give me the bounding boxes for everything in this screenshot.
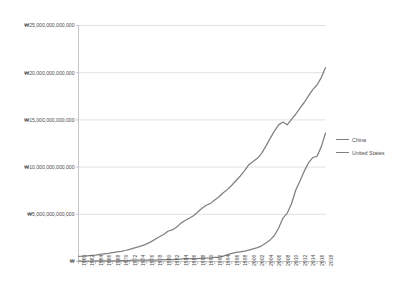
x-axis-tick-label: 1982 (174, 255, 180, 266)
legend-label-united-states: United States (352, 150, 384, 156)
x-axis-tick-label: 1978 (157, 255, 163, 266)
y-axis-tick-label: ₩ (70, 258, 75, 264)
legend-line-icon-united-states (336, 152, 349, 153)
x-axis-tick-label: 2006 (276, 255, 282, 266)
x-axis-tick-label: 1972 (132, 255, 138, 266)
x-axis-tick-label: 2004 (268, 255, 274, 266)
x-axis-tick-label: 1976 (149, 255, 155, 266)
y-axis-tick-label: ₩10,000,000,000,000 (24, 164, 74, 170)
x-axis-tick-label: 2014 (310, 255, 316, 266)
x-axis-tick-label: 1974 (140, 255, 146, 266)
x-axis-tick-label: 1998 (242, 255, 248, 266)
x-axis-tick-label: 2010 (293, 255, 299, 266)
x-axis-tick-label: 2000 (251, 255, 257, 266)
y-axis-tick-label: ₩5,000,000,000,000 (27, 211, 74, 217)
x-axis-tick-label: 1992 (217, 255, 223, 266)
legend-line-icon-china (336, 139, 349, 140)
x-axis-tick-label: 1962 (89, 255, 95, 266)
chart-legend: China United States (336, 133, 394, 159)
x-axis-tick-label: 2018 (328, 255, 334, 266)
x-axis-tick-label: 2008 (285, 255, 291, 266)
x-axis-tick-label: 1966 (106, 255, 112, 266)
x-axis-tick-label: 1964 (98, 255, 104, 266)
legend-item-china: China (336, 133, 394, 146)
x-axis-tick-label: 1970 (123, 255, 129, 266)
legend-item-united-states: United States (336, 146, 394, 159)
gdp-line-chart: ₩25,000,000,000,000₩20,000,000,000,000₩1… (0, 0, 395, 292)
x-axis-tick-label: 2002 (259, 255, 265, 266)
series-line-china (79, 133, 326, 261)
x-axis-tick-label: 2012 (302, 255, 308, 266)
x-axis-tick-label: 1960 (81, 255, 87, 266)
x-axis-tick-label: 1986 (191, 255, 197, 266)
y-axis-tick-label: ₩15,000,000,000,000 (24, 117, 74, 123)
x-axis-tick-label: 1996 (234, 255, 240, 266)
series-line-united-states (79, 68, 326, 257)
x-axis-tick-label: 1980 (166, 255, 172, 266)
x-axis-tick-label: 1990 (208, 255, 214, 266)
x-axis-tick-label: 2016 (319, 255, 325, 266)
x-axis-tick-label: 1984 (183, 255, 189, 266)
y-axis-tick-label: ₩20,000,000,000,000 (24, 70, 74, 76)
y-axis-tick-label: ₩25,000,000,000,000 (24, 22, 74, 28)
x-axis-tick-label: 1968 (115, 255, 121, 266)
x-axis-tick-label: 1988 (200, 255, 206, 266)
x-axis-tick-label: 1994 (225, 255, 231, 266)
legend-label-china: China (352, 137, 366, 143)
